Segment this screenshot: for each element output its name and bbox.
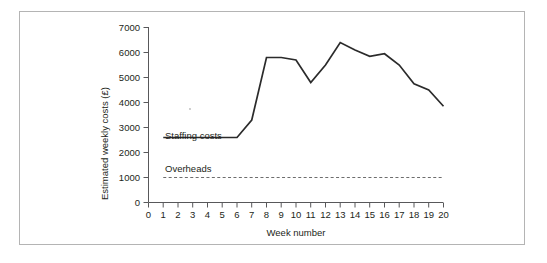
x-tick-label-6: 6 — [234, 209, 239, 220]
chart-svg: Estimated weekly costs (£) 0 1000 2000 3… — [0, 0, 547, 263]
x-tick-label-2: 2 — [175, 209, 180, 220]
y-tick-label-6000: 6000 — [119, 47, 140, 58]
x-tick-label-16: 16 — [379, 209, 390, 220]
x-tick-label-17: 17 — [394, 209, 405, 220]
staffing-costs-annotation: Staffing costs — [165, 130, 222, 141]
x-tick-label-3: 3 — [190, 209, 195, 220]
x-tick-label-12: 12 — [320, 209, 331, 220]
y-tick-label-5000: 5000 — [119, 72, 140, 83]
x-axis-ticks — [149, 203, 444, 208]
x-tick-label-11: 11 — [306, 209, 316, 220]
x-tick-label-1: 1 — [161, 209, 166, 220]
x-tick-label-8: 8 — [264, 209, 269, 220]
x-tick-label-15: 15 — [364, 209, 375, 220]
y-tick-label-2000: 2000 — [119, 147, 140, 158]
x-axis-labels: 0 1 2 3 4 5 6 7 8 9 10 11 12 13 14 15 16… — [146, 209, 449, 220]
scan-speck — [189, 108, 191, 110]
y-tick-label-4000: 4000 — [119, 97, 140, 108]
x-tick-label-7: 7 — [249, 209, 254, 220]
x-tick-label-10: 10 — [291, 209, 302, 220]
y-axis-title: Estimated weekly costs (£) — [99, 87, 110, 200]
x-tick-label-5: 5 — [220, 209, 225, 220]
x-tick-label-4: 4 — [205, 209, 210, 220]
staffing-costs-series-line — [163, 43, 443, 138]
x-tick-label-19: 19 — [423, 209, 434, 220]
y-axis-ticks — [144, 28, 149, 203]
x-tick-label-14: 14 — [350, 209, 361, 220]
x-tick-label-0: 0 — [146, 209, 151, 220]
x-tick-label-20: 20 — [438, 209, 449, 220]
y-tick-label-3000: 3000 — [119, 122, 140, 133]
y-tick-label-0: 0 — [135, 197, 140, 208]
x-tick-label-18: 18 — [409, 209, 420, 220]
x-tick-label-9: 9 — [279, 209, 284, 220]
y-axis-labels: 0 1000 2000 3000 4000 5000 6000 7000 — [119, 22, 140, 208]
line-chart: Estimated weekly costs (£) 0 1000 2000 3… — [0, 0, 547, 263]
x-axis-title: Week number — [267, 227, 326, 238]
y-tick-label-7000: 7000 — [119, 22, 140, 33]
y-tick-label-1000: 1000 — [119, 172, 140, 183]
x-tick-label-13: 13 — [335, 209, 346, 220]
overheads-annotation: Overheads — [165, 163, 212, 174]
